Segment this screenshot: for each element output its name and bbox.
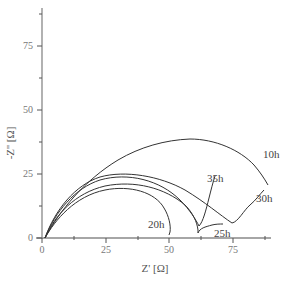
y-ticks (37, 14, 42, 238)
x-tick-label-50: 50 (164, 244, 174, 255)
series-25h (45, 184, 223, 238)
y-tick-label-0: 0 (28, 232, 33, 243)
label-35h: 35h (207, 172, 224, 184)
x-axis-title: Z' [Ω] (142, 262, 169, 274)
series-20h (45, 188, 170, 238)
label-20h: 20h (148, 218, 165, 230)
y-tick-label-25: 25 (23, 168, 33, 179)
y-axis-title: -Z'' [Ω] (4, 127, 16, 160)
x-tick-label-0: 0 (40, 244, 45, 255)
label-10h: 10h (263, 148, 280, 160)
x-tick-label-75: 75 (228, 244, 238, 255)
label-30h: 30h (256, 192, 273, 204)
label-25h: 25h (214, 227, 231, 239)
y-tick-label-75: 75 (23, 40, 33, 51)
x-ticks (42, 236, 265, 243)
nyquist-plot: 0 25 50 75 0 25 50 75 Z' [Ω] -Z'' [Ω] 10… (0, 0, 289, 287)
y-tick-label-50: 50 (23, 104, 33, 115)
x-tick-label-25: 25 (101, 244, 111, 255)
